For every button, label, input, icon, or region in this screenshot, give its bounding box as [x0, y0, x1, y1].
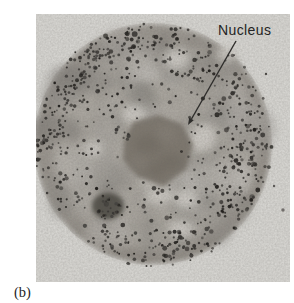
annotation-overlay	[36, 14, 290, 282]
subfigure-label: (b)	[14, 284, 31, 301]
nucleus-label: Nucleus	[218, 22, 271, 38]
figure-panel: Nucleus (b)	[0, 0, 294, 303]
micrograph-photo: Nucleus	[36, 14, 290, 282]
leader-arrowhead	[188, 118, 194, 125]
leader-line	[192, 41, 237, 119]
